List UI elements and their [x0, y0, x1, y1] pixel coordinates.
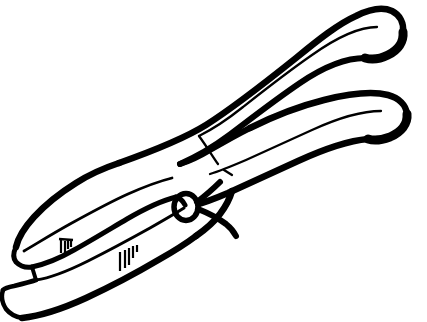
background-rect [0, 0, 427, 322]
pliers-illustration [0, 0, 427, 322]
serration-mark [59, 239, 73, 240]
illustration-canvas: Pliers [0, 0, 427, 322]
